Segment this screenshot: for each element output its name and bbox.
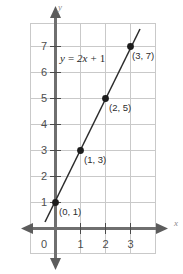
y-tick-label-2: 2 bbox=[41, 170, 47, 182]
data-point-1-3 bbox=[77, 147, 84, 154]
y-tick-label-6: 6 bbox=[41, 66, 47, 78]
data-point-2-5 bbox=[102, 95, 109, 102]
y-tick-label-4: 4 bbox=[41, 118, 47, 130]
equation-intercept: 1 bbox=[100, 52, 106, 64]
point-label-2-5: (2, 5) bbox=[109, 102, 131, 113]
x-axis-name: x bbox=[173, 218, 178, 228]
y-tick-label-7: 7 bbox=[41, 40, 47, 52]
y-tick-label-1: 1 bbox=[41, 196, 47, 208]
equation-equals: = bbox=[68, 52, 74, 64]
y-tick-label-3: 3 bbox=[41, 144, 47, 156]
equation-plus: + bbox=[91, 52, 97, 64]
point-label-3-7: (3, 7) bbox=[132, 50, 154, 61]
point-label-1-3: (1, 3) bbox=[84, 154, 106, 165]
y-axis-name: y bbox=[57, 2, 62, 12]
origin-label: 0 bbox=[41, 238, 47, 250]
graph-svg: 7 6 5 4 3 2 1 1 2 3 0 (0, 1) (1, 3) (2, … bbox=[0, 0, 183, 274]
coordinate-plane-graph: 7 6 5 4 3 2 1 1 2 3 0 (0, 1) (1, 3) (2, … bbox=[0, 0, 183, 274]
x-tick-label-3: 3 bbox=[127, 238, 133, 250]
equation-lhs: y bbox=[59, 52, 65, 64]
data-point-3-7 bbox=[127, 43, 134, 50]
data-point-0-1 bbox=[52, 199, 59, 206]
equation-label: y=2x+1 bbox=[59, 52, 105, 64]
point-label-0-1: (0, 1) bbox=[59, 206, 81, 217]
equation-slope-term: 2x bbox=[77, 52, 88, 64]
vertical-grid-lines bbox=[81, 24, 131, 254]
x-axis-arrow-left bbox=[21, 223, 33, 234]
x-tick-label-1: 1 bbox=[77, 238, 83, 250]
x-axis-arrow-right bbox=[156, 223, 168, 234]
y-axis-arrow-bottom bbox=[50, 258, 61, 270]
x-tick-label-2: 2 bbox=[102, 238, 108, 250]
y-tick-label-5: 5 bbox=[41, 92, 47, 104]
